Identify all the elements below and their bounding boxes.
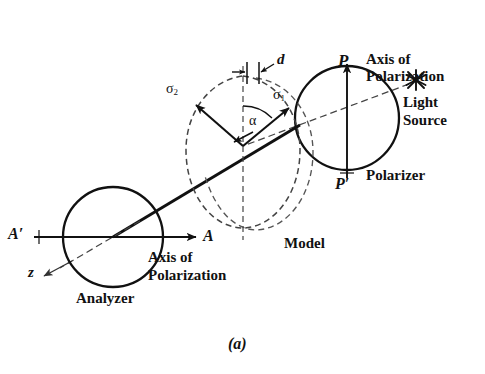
photoelasticity-polariscope-figure: P Axis of Polarization Light Source P′ P… [0, 0, 485, 374]
label-axis-of-polarization-bottom-line1: Axis of [148, 250, 193, 266]
label-light-source-line2: Source [403, 113, 447, 129]
label-z-axis: z [28, 265, 34, 281]
label-analyzer: Analyzer [76, 291, 134, 307]
diagram-canvas [0, 0, 485, 374]
label-light-source-line1: Light [403, 95, 438, 111]
sigma2-glyph: σ [166, 81, 174, 96]
label-axis-of-polarization-bottom-line2: Polarization [148, 268, 226, 284]
label-thickness-d: d [277, 52, 285, 68]
label-p-top: P [338, 52, 348, 70]
sigma1-subscript: 1 [281, 93, 286, 103]
sigma2-stress-arrow [196, 105, 243, 146]
polarizer-axis-line [340, 64, 354, 178]
label-a-left: A′ [8, 226, 23, 243]
sigma2-subscript: 2 [174, 87, 179, 97]
label-alpha-angle: α [249, 114, 256, 129]
label-a-right: A [203, 228, 214, 245]
light-ray-dashed-lower [44, 221, 140, 276]
figure-caption: (a) [228, 336, 247, 353]
label-axis-of-polarization-top-line2: Polarization [366, 69, 444, 85]
label-p-bottom: P′ [335, 176, 349, 193]
label-axis-of-polarization-top-line1: Axis of [366, 52, 411, 68]
label-model: Model [284, 236, 325, 252]
label-polarizer: Polarizer [366, 168, 425, 184]
analyzer-axis-line [34, 230, 196, 244]
sigma1-glyph: σ [273, 87, 281, 102]
label-sigma1: σ1 [273, 88, 285, 104]
label-sigma2: σ2 [166, 82, 178, 98]
